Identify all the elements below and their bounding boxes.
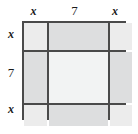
grid-cell-bottom-right	[110, 105, 132, 126]
grid-cell-bottom-left	[24, 105, 47, 126]
area-model-grid	[22, 21, 126, 120]
column-label-x-left: x	[22, 3, 45, 19]
column-label-x-right: x	[104, 3, 126, 19]
row-label-x-bottom: x	[2, 101, 20, 117]
grid-cell-top-left	[24, 23, 47, 50]
grid-cell-top-right	[110, 23, 132, 50]
grid-cell-bottom-middle	[49, 105, 108, 126]
grid-cell-middle-left	[24, 52, 47, 103]
row-label-x-top: x	[2, 26, 20, 42]
column-label-seven: 7	[45, 3, 104, 19]
grid-cell-middle-right	[110, 52, 132, 103]
grid-cell-top-middle	[49, 23, 108, 50]
grid-cell-center	[49, 52, 108, 103]
area-model-figure: x 7 x x 7 x	[0, 0, 138, 134]
row-label-seven: 7	[2, 65, 20, 81]
